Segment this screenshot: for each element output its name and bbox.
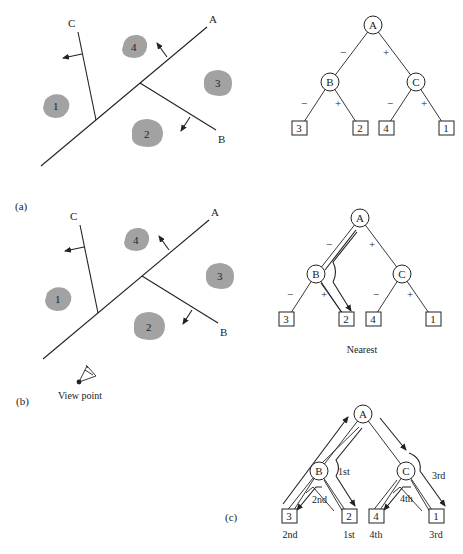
svg-text:B: B (315, 465, 322, 477)
svg-text:+: + (421, 97, 427, 109)
return-arrow (283, 417, 348, 504)
svg-text:−: − (301, 97, 307, 109)
svg-text:C: C (398, 268, 405, 280)
scene-a: 1 4 3 2 C A B (41, 13, 232, 166)
svg-text:+: + (383, 46, 389, 58)
svg-text:1: 1 (433, 510, 439, 522)
svg-text:C: C (412, 76, 419, 88)
svg-text:3: 3 (296, 122, 302, 134)
leaf-order-4: 4th (370, 529, 383, 540)
normal-arrow-a (157, 43, 167, 57)
label-4th: 4th (400, 493, 413, 504)
svg-text:2: 2 (357, 122, 363, 134)
partition-label-c: C (68, 17, 75, 29)
svg-text:3: 3 (283, 313, 289, 325)
svg-text:B: B (220, 326, 227, 338)
label-2nd: 2nd (312, 494, 327, 505)
region-4-label: 4 (131, 41, 137, 53)
nearest-arrow (333, 282, 351, 311)
svg-text:B: B (312, 268, 319, 280)
tree-a: A B C − + − + − + 3 2 4 1 (292, 16, 454, 135)
partition-label-b: B (218, 133, 225, 145)
svg-text:+: + (369, 238, 375, 250)
svg-text:3: 3 (217, 270, 223, 282)
leaf-order-3: 2nd (283, 529, 298, 540)
svg-text:C: C (402, 465, 409, 477)
svg-text:+: + (407, 288, 413, 300)
region-1-label: 1 (53, 100, 59, 112)
panel-label-a: (a) (15, 200, 28, 213)
view-point-label: View point (58, 390, 102, 401)
svg-text:A: A (369, 19, 377, 31)
svg-text:B: B (326, 76, 333, 88)
tree-c: A B C 3 2 4 1 1st 2nd 3rd 4th 2nd 1st 4t… (282, 405, 445, 540)
svg-text:−: − (340, 46, 346, 58)
svg-text:4: 4 (383, 122, 389, 134)
svg-text:C: C (70, 210, 77, 222)
svg-text:4: 4 (370, 313, 376, 325)
panel-label-c: (c) (225, 511, 238, 524)
region-2-label: 2 (144, 128, 150, 140)
leaf-order-2: 1st (343, 529, 355, 540)
svg-text:3: 3 (286, 510, 292, 522)
svg-text:A: A (211, 206, 219, 218)
panel-label-b: (b) (16, 395, 29, 408)
tree-b: A B C − + − + − + 3 2 4 1 (279, 209, 441, 326)
scene-b: 1 4 3 2 C A B (43, 206, 234, 359)
svg-text:−: − (326, 238, 332, 250)
svg-text:4: 4 (373, 510, 379, 522)
region-3-label: 3 (215, 77, 221, 89)
view-point-icon (77, 365, 96, 384)
svg-text:4: 4 (133, 234, 139, 246)
svg-text:1: 1 (443, 122, 449, 134)
svg-text:−: − (387, 97, 393, 109)
svg-text:−: − (373, 288, 379, 300)
normal-arrow-c (63, 54, 82, 58)
svg-text:1: 1 (55, 293, 61, 305)
partition-line-c (78, 32, 96, 120)
label-3rd: 3rd (432, 470, 445, 481)
svg-text:2: 2 (146, 321, 152, 333)
svg-text:2: 2 (346, 510, 352, 522)
third-down-arrow (380, 418, 406, 450)
bsp-tree-figure: 1 4 3 2 C A B A B C − + − + − + (0, 0, 463, 554)
svg-text:A: A (359, 408, 367, 420)
search-path (325, 230, 356, 270)
normal-arrow-b (181, 117, 190, 131)
leaf-order-1: 3rd (429, 529, 442, 540)
svg-text:2: 2 (343, 313, 349, 325)
svg-text:−: − (287, 288, 293, 300)
svg-text:+: + (321, 288, 327, 300)
partition-label-a: A (209, 13, 217, 25)
nearest-caption: Nearest (347, 344, 378, 355)
svg-text:+: + (335, 97, 341, 109)
svg-text:A: A (356, 212, 364, 224)
svg-text:1: 1 (430, 313, 436, 325)
label-1st: 1st (338, 466, 350, 477)
